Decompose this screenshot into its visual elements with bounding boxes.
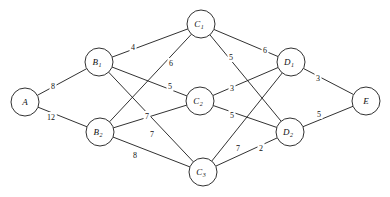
edge-weight-c3-d2: 2 [258,143,265,153]
node-subscript: 1 [201,24,204,30]
edge-weight-b2-c3: 8 [132,150,139,160]
edge-a-b1 [37,69,86,96]
nodes-layer: AB1B2C1C2C3D1D2E [11,10,380,186]
weight-value: 6 [169,59,173,68]
weight-value: 8 [51,82,55,91]
weight-value: 7 [236,144,240,153]
edge-weight-d2-e: 5 [316,109,323,119]
edge-c3-d2 [216,138,278,166]
network-graph: AB1B2C1C2C3D1D2E 81246577865357235 [0,0,390,197]
weight-value: 5 [229,53,233,62]
edge-weight-b2-c2: 7 [149,129,156,139]
edge-b2-c3 [113,137,190,167]
node-c1[interactable]: C1 [187,10,215,38]
edge-weight-c3-d1: 7 [235,143,242,153]
edge-weight-b1-c3: 5 [167,81,174,91]
edge-weight-c2-d1: 3 [229,83,236,93]
edge-weight-c2-d2: 5 [229,110,236,120]
node-subscript: 1 [99,62,102,68]
node-subscript: 2 [200,101,203,107]
edge-b1-c2 [112,67,187,96]
node-c2[interactable]: C2 [186,87,214,115]
weight-value: 5 [168,82,172,91]
node-subscript: 1 [291,62,294,68]
weight-value: 5 [317,110,321,119]
node-c3[interactable]: C3 [189,158,217,186]
edge-weight-c1-d2: 5 [228,52,235,62]
edge-b2-c1 [110,34,192,122]
node-subscript: 2 [290,132,293,138]
weight-value: 7 [145,112,149,121]
weight-value: 12 [47,113,55,122]
edge-weight-d1-e: 3 [315,73,322,83]
edge-c2-d1 [213,68,278,96]
edge-weight-a-b2: 12 [45,112,57,122]
node-label-e: E [362,96,369,106]
node-a[interactable]: A [11,88,39,116]
edge-c3-d1 [212,73,283,161]
edge-weight-b1-c2: 6 [168,58,175,68]
weight-value: 5 [230,111,234,120]
weight-value: 7 [150,130,154,139]
weight-value: 3 [230,84,234,93]
weight-value: 4 [131,43,135,52]
weight-value: 8 [133,151,137,160]
edge-b1-c3 [109,72,194,162]
node-b2[interactable]: B2 [86,118,114,146]
node-subscript: 2 [100,132,103,138]
edge-weight-c1-d1: 6 [262,45,269,55]
edge-b1-c1 [112,29,188,57]
node-e[interactable]: E [352,87,380,115]
node-b1[interactable]: B1 [85,48,113,76]
edge-d2-e [303,106,353,126]
edge-weight-b1-c1: 4 [130,42,137,52]
node-d1[interactable]: D1 [277,48,305,76]
node-d2[interactable]: D2 [276,118,304,146]
node-label-a: A [21,97,28,107]
weight-value: 2 [259,144,263,153]
edge-weight-b2-c1: 7 [144,111,151,121]
edge-c2-d2 [213,106,277,128]
node-subscript: 3 [202,172,206,178]
edge-weight-a-b1: 8 [50,81,57,91]
edge-d1-e [303,68,353,94]
diagram-canvas: AB1B2C1C2C3D1D2E 81246577865357235 [0,0,390,197]
weight-value: 6 [263,46,267,55]
weight-value: 3 [316,74,320,83]
